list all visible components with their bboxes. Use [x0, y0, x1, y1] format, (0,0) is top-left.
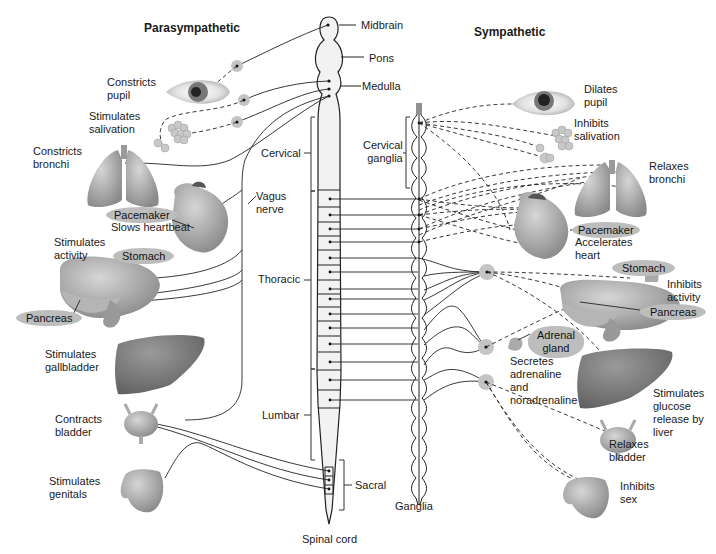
pancreas-pill-right: Pancreas: [640, 304, 706, 320]
parasympathetic-header: Parasympathetic: [144, 22, 240, 35]
secretes-adrenaline-label: Secretes adrenaline and noradrenaline: [510, 355, 577, 407]
lumbar-label: Lumbar: [262, 409, 299, 422]
liver-left: [115, 335, 205, 394]
stimulates-salivation-label: Stimulates salivation: [89, 110, 140, 136]
adrenal-gland: [508, 338, 523, 351]
dilates-pupil-label: Dilates pupil: [584, 83, 618, 109]
cervical-ganglia-label: Cervical ganglia: [363, 139, 403, 165]
ganglia-label: Ganglia: [395, 500, 433, 513]
genitals-right: [563, 477, 609, 518]
bladder-left: [124, 404, 158, 444]
vagus-nerve-label: Vagus nerve: [256, 190, 286, 216]
spinal-cord-label: Spinal cord: [302, 533, 357, 546]
salivary-glands-right: [536, 126, 573, 163]
parasympathetic-organs: [60, 80, 230, 512]
inhibits-sex-label: Inhibits sex: [620, 480, 655, 506]
relaxes-bronchi-label: Relaxes bronchi: [649, 160, 689, 186]
sympathetic-ganglia-chain: [412, 103, 427, 505]
stomach-pill-right: Stomach: [612, 260, 675, 276]
autonomic-nervous-system-diagram: Parasympathetic Sympathetic Midbrain Pon…: [0, 0, 716, 554]
inhibits-salivation-label: Inhibits salivation: [574, 117, 620, 143]
salivary-glands-left: [154, 121, 191, 152]
heart-left: [172, 182, 228, 253]
lungs-left: [87, 145, 158, 207]
adrenal-gland-pill: Adrenal gland: [528, 326, 584, 358]
accelerates-heart-label: Accelerates heart: [575, 236, 632, 262]
constricts-bronchi-label: Constricts bronchi: [33, 145, 82, 171]
inhibits-activity-label: Inhibits activity: [667, 278, 702, 304]
pancreas-pill-left: Pancreas: [16, 310, 82, 326]
lungs-right: [575, 160, 647, 217]
sacral-label: Sacral: [355, 479, 386, 492]
midbrain-label: Midbrain: [361, 19, 403, 32]
sympathetic-header: Sympathetic: [474, 26, 545, 39]
stimulates-glucose-label: Stimulates glucose release by liver: [653, 387, 704, 439]
genitals-left: [121, 469, 164, 512]
stimulates-genitals-label: Stimulates genitals: [49, 475, 100, 501]
slows-heartbeat-label: Slows heartbeat: [111, 221, 190, 234]
stimulates-gallbladder-label: Stimulates gallbladder: [45, 348, 99, 374]
relaxes-bladder-label: Relaxes bladder: [609, 438, 649, 464]
stomach-pill-left: Stomach: [113, 248, 174, 264]
constricts-pupil-label: Constricts pupil: [107, 76, 156, 102]
heart-right: [514, 192, 568, 259]
stimulates-activity-label: Stimulates activity: [54, 236, 105, 262]
cervical-label: Cervical: [261, 147, 301, 160]
contracts-bladder-label: Contracts bladder: [55, 413, 102, 439]
eye-left: [166, 80, 230, 103]
thoracic-label: Thoracic: [258, 273, 300, 286]
eye-right: [512, 91, 575, 115]
spinal-cord: [315, 17, 342, 524]
medulla-label: Medulla: [362, 80, 401, 93]
pons-label: Pons: [369, 52, 394, 65]
